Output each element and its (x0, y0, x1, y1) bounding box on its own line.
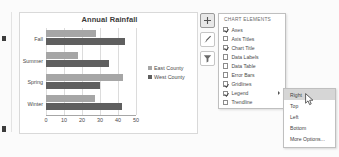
legend-swatch (148, 66, 152, 70)
bar-east-county[interactable] (46, 30, 96, 37)
chart-filters-button[interactable] (200, 51, 215, 66)
chart-element-label: Chart Title (231, 45, 254, 51)
chart-element-label: Gridlines (231, 81, 251, 87)
chart-element-label: Error Bars (231, 72, 254, 78)
bar-west-county[interactable] (46, 103, 122, 110)
bar-east-county[interactable] (46, 52, 78, 59)
value-axis-tick-label: 0 (45, 117, 48, 123)
category-axis-label: Spring (17, 79, 43, 85)
chart-quick-buttons (200, 13, 216, 70)
chart-element-label: Trendline (231, 99, 252, 105)
window-edge-marker-bottom (2, 126, 6, 132)
value-axis-tick-label: 40 (115, 117, 121, 123)
chart-element-row-trendline[interactable]: Trendline (223, 98, 283, 107)
brush-icon (201, 33, 214, 46)
bar-group[interactable] (46, 93, 136, 115)
filter-icon (201, 52, 214, 65)
chart-element-label: Axis Titles (231, 36, 254, 42)
category-axis-label: Summer (17, 58, 43, 64)
mouse-cursor (305, 92, 314, 110)
window-edge-divider (11, 12, 12, 132)
chart-legend[interactable]: East CountyWest County (148, 65, 185, 83)
chart-element-row-error-bars[interactable]: Error Bars (223, 70, 283, 79)
chart-element-row-chart-title[interactable]: Chart Title (223, 43, 283, 52)
chart-element-row-legend[interactable]: Legend (223, 89, 283, 98)
checkbox[interactable] (223, 54, 228, 59)
chart-element-label: Data Labels (231, 54, 258, 60)
chart-element-label: Data Table (231, 63, 255, 69)
category-axis-label: Winter (17, 101, 43, 107)
legend-position-item-bottom[interactable]: Bottom (284, 122, 335, 133)
checkbox[interactable] (223, 72, 228, 77)
gridline (136, 28, 137, 115)
chart-element-row-axis-titles[interactable]: Axis Titles (223, 34, 283, 43)
legend-item[interactable]: East County (148, 65, 185, 71)
checkbox[interactable] (223, 45, 228, 50)
legend-label: East County (154, 65, 183, 71)
bar-east-county[interactable] (46, 95, 95, 102)
value-axis-tick-label: 50 (133, 117, 139, 123)
legend-swatch (148, 75, 152, 79)
chart-styles-button[interactable] (200, 32, 215, 47)
chart-element-row-axes[interactable]: Axes (223, 25, 283, 34)
bar-group[interactable] (46, 50, 136, 72)
chart-element-label: Legend (231, 90, 248, 96)
chart-elements-button[interactable] (200, 13, 215, 28)
pane-heading: CHART ELEMENTS (224, 17, 271, 22)
checkbox[interactable] (223, 63, 228, 68)
chart-element-row-gridlines[interactable]: Gridlines (223, 80, 283, 89)
chart-element-row-data-table[interactable]: Data Table (223, 61, 283, 70)
chart-element-row-data-labels[interactable]: Data Labels (223, 52, 283, 61)
plus-icon (201, 14, 214, 27)
chart-area[interactable]: Annual Rainfall FallSummerSpringWinter 0… (19, 12, 198, 134)
chart-elements-list: AxesAxis TitlesChart TitleData LabelsDat… (223, 25, 283, 107)
category-axis-line (46, 115, 136, 116)
category-axis-label: Fall (17, 36, 43, 42)
checkbox[interactable] (223, 27, 228, 32)
bar-east-county[interactable] (46, 74, 123, 81)
chart-plot-area: FallSummerSpringWinter 01020304050 (46, 28, 136, 115)
legend-label: West County (154, 74, 185, 80)
checkbox[interactable] (223, 81, 228, 86)
checkbox[interactable] (223, 91, 228, 96)
legend-item[interactable]: West County (148, 74, 185, 80)
legend-position-item-left[interactable]: Left (284, 111, 335, 122)
bar-west-county[interactable] (46, 82, 100, 89)
bar-group[interactable] (46, 72, 136, 94)
chevron-right-icon[interactable] (278, 91, 280, 95)
chart-element-label: Axes (231, 27, 242, 33)
legend-position-item-more-options[interactable]: More Options... (284, 133, 335, 144)
bar-group[interactable] (46, 28, 136, 50)
window-edge-marker-top (2, 36, 6, 41)
value-axis-tick-label: 10 (61, 117, 67, 123)
screen-root: Annual Rainfall FallSummerSpringWinter 0… (0, 0, 339, 157)
chart-elements-pane[interactable]: CHART ELEMENTS AxesAxis TitlesChart Titl… (218, 13, 286, 109)
chart-title: Annual Rainfall (20, 15, 199, 24)
bar-west-county[interactable] (46, 38, 125, 45)
bar-west-county[interactable] (46, 60, 109, 67)
checkbox[interactable] (223, 36, 228, 41)
value-axis-tick-label: 20 (79, 117, 85, 123)
value-axis-tick-label: 30 (97, 117, 103, 123)
checkbox[interactable] (223, 100, 228, 105)
